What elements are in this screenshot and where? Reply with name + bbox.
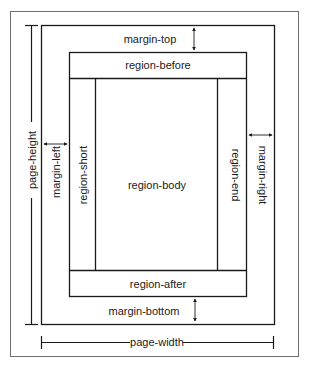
label-margin-top: margin-top	[124, 33, 177, 45]
label-page-height: page-height	[26, 131, 38, 189]
label-page-width: page-width	[130, 336, 184, 348]
label-region-after: region-after	[130, 278, 187, 290]
label-region-body: region-body	[128, 179, 187, 191]
label-region-before: region-before	[125, 59, 190, 71]
page-layout-diagram: margin-top region-before region-body reg…	[0, 0, 313, 371]
label-margin-right: margin-right	[257, 146, 269, 205]
label-margin-left: margin-left	[50, 146, 62, 198]
label-region-end: region-end	[230, 149, 242, 202]
label-margin-bottom: margin-bottom	[109, 305, 180, 317]
label-region-short: region-short	[77, 146, 89, 205]
